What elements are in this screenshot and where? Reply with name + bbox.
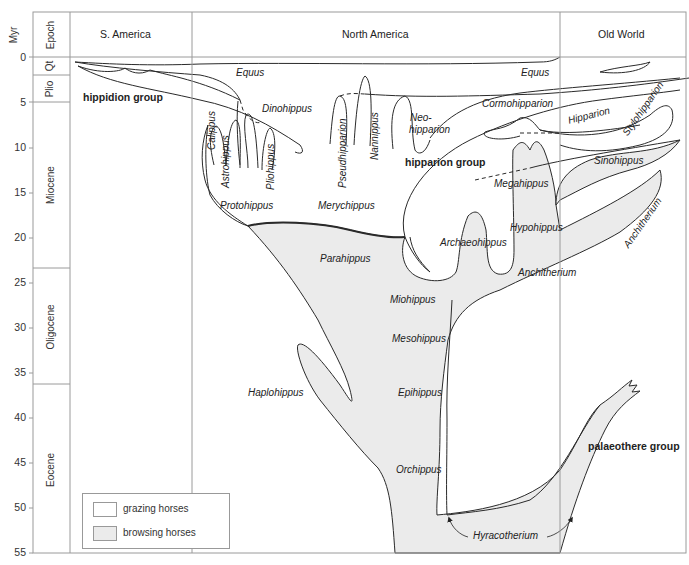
tick-50: 50 bbox=[0, 502, 26, 513]
label-pliohippus: Pliohippus bbox=[266, 144, 276, 190]
legend: grazing horses browsing horses bbox=[82, 493, 230, 549]
label-mesohippus: Mesohippus bbox=[392, 334, 446, 344]
label-epihippus: Epihippus bbox=[398, 388, 442, 398]
epoch-oligocene: Oligocene bbox=[46, 304, 56, 349]
label-hypohippus: Hypohippus bbox=[510, 223, 563, 233]
legend-label-browsing: browsing horses bbox=[123, 528, 196, 538]
tick-10: 10 bbox=[0, 142, 26, 153]
region-header-old-world: Old World bbox=[598, 29, 645, 40]
tick-40: 40 bbox=[0, 412, 26, 423]
horse-phylogeny-diagram: Myr Epoch S. America North America Old W… bbox=[0, 0, 689, 565]
legend-swatch-browsing bbox=[93, 526, 117, 541]
label-cormohipparion: Cormohipparion bbox=[482, 99, 553, 109]
tick-15: 15 bbox=[0, 187, 26, 198]
tick-0: 0 bbox=[0, 52, 26, 63]
epoch-miocene: Miocene bbox=[46, 166, 56, 204]
label-miohippus: Miohippus bbox=[390, 295, 436, 305]
tick-45: 45 bbox=[0, 457, 26, 468]
tick-5: 5 bbox=[0, 97, 26, 108]
region-header-north-america: North America bbox=[342, 29, 409, 40]
label-hippidion-group: hippidion group bbox=[83, 92, 163, 103]
epoch-eocene: Eocene bbox=[46, 453, 56, 487]
label-pseudhipparion: Pseudhipparion bbox=[338, 119, 348, 189]
epoch-qt: Qt bbox=[45, 61, 55, 72]
label-hipparion-group: hipparion group bbox=[405, 157, 486, 168]
label-parahippus: Parahippus bbox=[320, 254, 371, 264]
label-equus-na: Equus bbox=[236, 68, 264, 78]
tick-35: 35 bbox=[0, 367, 26, 378]
label-nannippus: Nannippus bbox=[370, 112, 380, 160]
label-protohippus: Protohippus bbox=[220, 201, 273, 211]
legend-label-grazing: grazing horses bbox=[123, 504, 189, 514]
tick-30: 30 bbox=[0, 322, 26, 333]
label-hyracotherium: Hyracotherium bbox=[473, 531, 538, 541]
label-equus-ow: Equus bbox=[521, 68, 549, 78]
label-calippus: Calippus bbox=[207, 111, 217, 150]
label-astrohippus: Astrohippus bbox=[221, 135, 231, 188]
tick-55: 55 bbox=[0, 547, 26, 558]
label-haplohippus: Haplohippus bbox=[248, 388, 304, 398]
epoch-plio: Plio bbox=[45, 81, 55, 98]
label-orchippus: Orchippus bbox=[396, 465, 442, 475]
region-header-s-america: S. America bbox=[100, 29, 151, 40]
legend-swatch-grazing bbox=[93, 502, 117, 517]
label-megahippus: Megahippus bbox=[494, 179, 548, 189]
label-neohipparion-1: Neo- bbox=[410, 113, 432, 123]
label-archaeohippus: Archaeohippus bbox=[440, 238, 507, 248]
diagram-graphics bbox=[0, 0, 689, 565]
epoch-header: Epoch bbox=[46, 21, 56, 49]
label-merychippus: Merychippus bbox=[318, 201, 375, 211]
myr-header: Myr bbox=[9, 27, 19, 44]
label-neohipparion-2: hipparion bbox=[409, 125, 450, 135]
tick-20: 20 bbox=[0, 232, 26, 243]
label-sinohippus: Sinohippus bbox=[594, 156, 643, 166]
label-anchitherium-na: Anchitherium bbox=[518, 268, 576, 278]
label-palaeothere-group: palaeothere group bbox=[588, 441, 680, 452]
label-dinohippus: Dinohippus bbox=[262, 104, 312, 114]
browsing-trunk bbox=[248, 142, 661, 553]
tick-25: 25 bbox=[0, 277, 26, 288]
